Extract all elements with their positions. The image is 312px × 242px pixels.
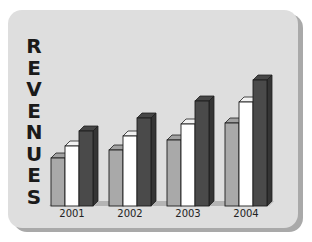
bar-2004-series-2 <box>239 102 253 206</box>
x-tick-2002: 2002 <box>110 208 150 219</box>
bar-side-2002-2 <box>151 113 156 206</box>
bar-2002-series-3 <box>137 118 151 206</box>
bar-2001-series-1 <box>51 158 65 206</box>
bar-2003-series-1 <box>167 140 181 206</box>
bar-2003-series-3 <box>195 101 209 206</box>
x-tick-2004: 2004 <box>226 208 266 219</box>
x-tick-2001: 2001 <box>52 208 92 219</box>
bar-2002-series-2 <box>123 136 137 206</box>
bar-side-2004-2 <box>267 75 272 206</box>
bar-2003-series-2 <box>181 124 195 206</box>
bar-2004-series-3 <box>253 80 267 206</box>
bar-2004-series-1 <box>225 123 239 206</box>
bar-2002-series-1 <box>109 150 123 206</box>
bar-side-2003-2 <box>209 96 214 206</box>
bar-2001-series-3 <box>79 131 93 206</box>
bar-side-2001-2 <box>93 126 98 206</box>
x-tick-2003: 2003 <box>168 208 208 219</box>
plot-area <box>0 0 312 242</box>
bar-2001-series-2 <box>65 146 79 206</box>
